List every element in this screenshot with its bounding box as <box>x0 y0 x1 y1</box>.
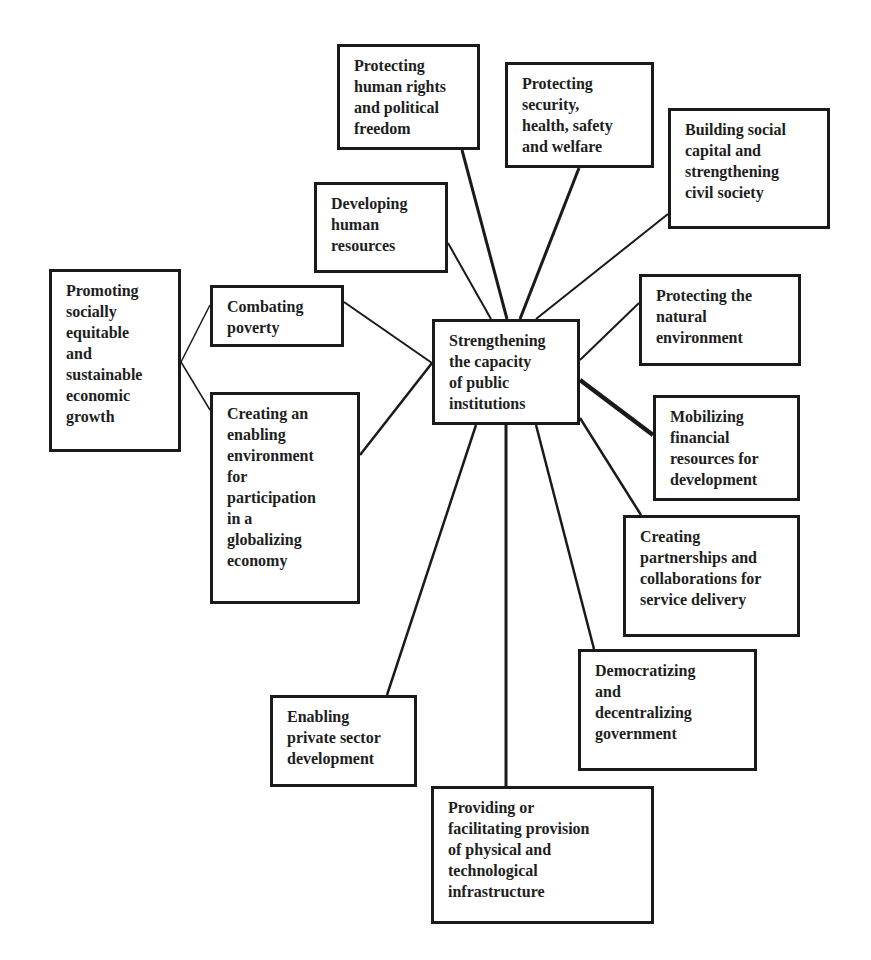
connector-globalizing-to-center <box>360 363 432 455</box>
node-social-capital: Building social capital and strengthenin… <box>668 108 830 229</box>
connector-democratizing-to-center <box>536 425 594 649</box>
node-poverty: Combating poverty <box>210 285 344 347</box>
connector-natural-environment-to-center <box>580 303 639 360</box>
node-financial-resources: Mobilizing financial resources for devel… <box>653 395 800 501</box>
node-security: Protecting security, health, safety and … <box>505 62 654 168</box>
connector-financial-resources-to-center <box>580 380 653 435</box>
connector-economic-growth-to-globalizing <box>181 362 210 410</box>
node-natural-environment: Protecting the natural environment <box>639 274 801 366</box>
node-human-rights: Protecting human rights and political fr… <box>337 44 480 150</box>
node-economic-growth: Promoting socially equitable and sustain… <box>49 269 181 452</box>
connector-economic-growth-to-poverty <box>181 305 210 362</box>
node-center: Strengthening the capacity of public ins… <box>432 319 580 425</box>
node-human-resources: Developing human resources <box>314 182 448 273</box>
node-democratizing: Democratizing and decentralizing governm… <box>578 649 757 771</box>
connector-private-sector-to-center <box>387 425 476 695</box>
node-infrastructure: Providing or facilitating provision of p… <box>431 786 654 924</box>
node-private-sector: Enabling private sector development <box>270 695 417 787</box>
connector-security-to-center <box>520 168 579 319</box>
node-globalizing: Creating an enabling environment for par… <box>210 392 360 604</box>
node-partnerships: Creating partnerships and collaborations… <box>623 515 800 637</box>
connector-partnerships-to-center <box>580 418 641 515</box>
connector-poverty-to-center <box>344 302 432 363</box>
connector-human-rights-to-center <box>462 150 507 319</box>
capacity-building-diagram: Strengthening the capacity of public ins… <box>0 0 871 960</box>
connector-human-resources-to-center <box>448 243 491 319</box>
